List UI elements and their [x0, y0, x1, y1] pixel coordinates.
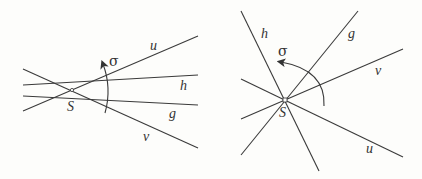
- label-S: S: [67, 99, 74, 114]
- label-g: g: [169, 106, 176, 121]
- label-u: u: [150, 38, 157, 53]
- line-u: [23, 36, 198, 111]
- label-sigma: σ: [109, 53, 119, 69]
- figure: u h g v S σ h g v u S σ: [0, 0, 422, 179]
- line-h: [23, 75, 198, 85]
- label-v: v: [375, 63, 382, 78]
- label-h: h: [180, 78, 187, 93]
- line-g: [241, 11, 358, 155]
- label-sigma: σ: [278, 43, 288, 59]
- line-g: [23, 96, 198, 105]
- line-h: [241, 11, 319, 171]
- label-h: h: [261, 26, 268, 41]
- center-point: [283, 98, 287, 102]
- center-point: [70, 88, 73, 91]
- line-v: [241, 49, 403, 119]
- left-diagram: u h g v S σ: [23, 36, 198, 148]
- label-u: u: [366, 141, 373, 156]
- label-S: S: [279, 105, 286, 120]
- label-g: g: [348, 26, 355, 41]
- label-v: v: [143, 129, 150, 144]
- right-diagram: h g v u S σ: [241, 11, 403, 171]
- diagram-canvas: u h g v S σ h g v u S σ: [0, 0, 422, 179]
